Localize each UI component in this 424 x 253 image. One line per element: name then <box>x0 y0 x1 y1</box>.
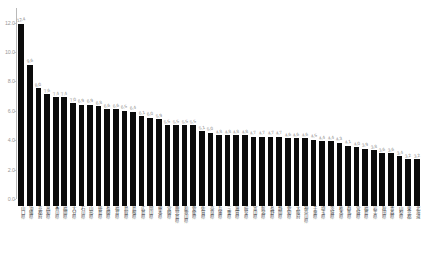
bar-item[interactable]: 7.4 <box>53 15 59 206</box>
bar[interactable] <box>388 153 394 206</box>
bar-item[interactable]: 5.9 <box>156 15 162 206</box>
bar-item[interactable]: 4.8 <box>225 15 231 206</box>
x-axis-category-label[interactable]: 福島県 <box>363 206 367 218</box>
bar-item[interactable]: 6.4 <box>130 15 136 206</box>
x-axis-category-label[interactable]: 宮城県 <box>354 206 358 218</box>
bar-item[interactable]: 4.4 <box>328 15 334 206</box>
x-axis-category-label[interactable]: 愛媛県 <box>191 206 195 218</box>
bar[interactable] <box>156 119 162 206</box>
bar[interactable] <box>70 103 76 206</box>
bar[interactable] <box>199 131 205 206</box>
x-axis-category-label[interactable]: 群馬県 <box>346 206 350 218</box>
bar-item[interactable]: 7.4 <box>61 15 67 206</box>
bar-item[interactable]: 3.2 <box>405 15 411 206</box>
bar[interactable] <box>337 143 343 206</box>
x-axis-category-label[interactable]: 静岡県 <box>277 206 281 218</box>
bar[interactable] <box>173 125 179 206</box>
x-axis-category-label[interactable]: 広島県 <box>139 206 143 218</box>
x-axis-category-label[interactable]: 高知県 <box>45 206 49 218</box>
bar[interactable] <box>27 65 33 206</box>
x-axis-category-label[interactable]: 青森県 <box>389 206 393 218</box>
x-axis-category-label[interactable]: 秋田県 <box>380 206 384 218</box>
bar[interactable] <box>79 105 85 206</box>
bar[interactable] <box>113 109 119 206</box>
bar-item[interactable]: 4.7 <box>251 15 257 206</box>
bar-item[interactable]: 3.4 <box>397 15 403 206</box>
bar-item[interactable]: 5.5 <box>190 15 196 206</box>
bar-item[interactable]: 4.4 <box>319 15 325 206</box>
x-axis-category-label[interactable]: 東京都 <box>406 206 410 218</box>
bar[interactable] <box>259 137 265 206</box>
bar-item[interactable]: 8.0 <box>36 15 42 206</box>
bar[interactable] <box>130 112 136 206</box>
bar-item[interactable]: 5.5 <box>182 15 188 206</box>
bar[interactable] <box>371 150 377 206</box>
bar[interactable] <box>96 106 102 206</box>
x-axis-category-label[interactable]: 岩手県 <box>372 206 376 218</box>
bar[interactable] <box>216 135 222 206</box>
bar[interactable] <box>251 137 257 206</box>
bar[interactable] <box>147 118 153 206</box>
bar-item[interactable]: 5.5 <box>165 15 171 206</box>
bar-item[interactable]: 12.4 <box>18 15 24 206</box>
x-axis-category-label[interactable]: 山形県 <box>88 206 92 218</box>
bar-item[interactable]: 6.0 <box>147 15 153 206</box>
bar[interactable] <box>190 125 196 206</box>
x-axis-category-label[interactable]: 愛知県 <box>286 206 290 218</box>
bar[interactable] <box>139 116 145 206</box>
bar-item[interactable]: 4.7 <box>268 15 274 206</box>
x-axis-category-label[interactable]: 沖縄県 <box>28 206 32 218</box>
bar-item[interactable]: 3.9 <box>362 15 368 206</box>
bar[interactable] <box>319 141 325 206</box>
x-axis-category-label[interactable]: 奈良県 <box>208 206 212 218</box>
x-axis-category-label[interactable]: 大阪府 <box>294 206 298 218</box>
x-axis-category-label[interactable]: 福岡県 <box>62 206 66 218</box>
x-axis-category-label[interactable]: 鹿児島県 <box>174 206 178 222</box>
bar-item[interactable]: 4.5 <box>311 15 317 206</box>
bar[interactable] <box>362 149 368 206</box>
bar-item[interactable]: 5.1 <box>199 15 205 206</box>
bar[interactable] <box>225 135 231 206</box>
bar-item[interactable]: 4.8 <box>242 15 248 206</box>
x-axis-category-label[interactable]: 山梨県 <box>397 206 401 218</box>
bar-item[interactable]: 4.0 <box>354 15 360 206</box>
bar[interactable] <box>182 125 188 206</box>
x-axis-category-label[interactable]: 岐阜県 <box>243 206 247 218</box>
x-axis-category-label[interactable]: 茨城県 <box>329 206 333 218</box>
bar[interactable] <box>302 138 308 206</box>
x-axis-category-label[interactable]: 栃木県 <box>337 206 341 218</box>
bar-item[interactable]: 4.1 <box>345 15 351 206</box>
x-axis-category-label[interactable]: 佐賀県 <box>200 206 204 218</box>
bar-item[interactable]: 4.8 <box>216 15 222 206</box>
bar[interactable] <box>311 140 317 206</box>
x-axis-category-label[interactable]: 和歌山県 <box>182 206 186 222</box>
x-axis-category-label[interactable]: 京都府 <box>36 206 40 218</box>
x-axis-category-label[interactable]: 兵庫県 <box>217 206 221 218</box>
x-axis-category-label[interactable]: 新潟県 <box>260 206 264 218</box>
bar[interactable] <box>242 135 248 206</box>
bar-item[interactable]: 4.3 <box>337 15 343 206</box>
x-axis-category-label[interactable]: 千葉県 <box>311 206 315 218</box>
bar-item[interactable]: 5.0 <box>208 15 214 206</box>
x-axis-category-label[interactable]: 徳島県 <box>96 206 100 218</box>
x-axis-category-label[interactable]: 滋賀県 <box>234 206 238 218</box>
x-axis-category-label[interactable]: 富山県 <box>251 206 255 218</box>
bar[interactable] <box>87 105 93 206</box>
bar[interactable] <box>345 146 351 206</box>
x-axis-category-label[interactable]: 鳥取県 <box>122 206 126 218</box>
bar-item[interactable]: 7.6 <box>44 15 50 206</box>
bar-item[interactable]: 4.6 <box>302 15 308 206</box>
bar[interactable] <box>61 97 67 206</box>
bar-item[interactable]: 4.7 <box>276 15 282 206</box>
x-axis-category-label[interactable]: 北海道 <box>414 206 418 218</box>
x-axis-category-label[interactable]: 熊本県 <box>157 206 161 218</box>
x-axis-category-label[interactable]: 埼玉県 <box>320 206 324 218</box>
bar-item[interactable]: 3.8 <box>371 15 377 206</box>
x-axis-category-label[interactable]: 長崎県 <box>105 206 109 218</box>
bar-item[interactable]: 5.5 <box>173 15 179 206</box>
bar-item[interactable]: 4.7 <box>259 15 265 206</box>
bar[interactable] <box>104 109 110 206</box>
bar-item[interactable]: 7.0 <box>70 15 76 206</box>
bar[interactable] <box>276 137 282 206</box>
bar-item[interactable]: 3.6 <box>379 15 385 206</box>
